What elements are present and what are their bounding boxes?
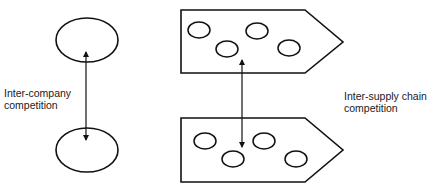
member-company-icon (246, 23, 268, 39)
member-company-icon (222, 151, 244, 167)
inter-supply-chain-label-line1: Inter-supply chain (344, 90, 427, 102)
supply-chain-top-node (181, 10, 343, 73)
inter-company-label-line1: Inter-company (4, 87, 71, 99)
member-company-icon (253, 133, 275, 149)
member-company-icon (194, 133, 216, 149)
inter-company-label: Inter-company competition (4, 87, 71, 111)
inter-supply-chain-label-line2: competition (344, 102, 427, 114)
company-bottom-node (56, 128, 118, 172)
member-company-icon (285, 151, 307, 167)
member-company-icon (278, 40, 300, 56)
member-company-icon (188, 22, 210, 38)
company-top-node (56, 18, 118, 62)
supply-chain-bottom-node (181, 118, 343, 182)
member-company-icon (216, 41, 238, 57)
inter-company-label-line2: competition (4, 99, 71, 111)
inter-supply-chain-label: Inter-supply chain competition (344, 90, 427, 114)
